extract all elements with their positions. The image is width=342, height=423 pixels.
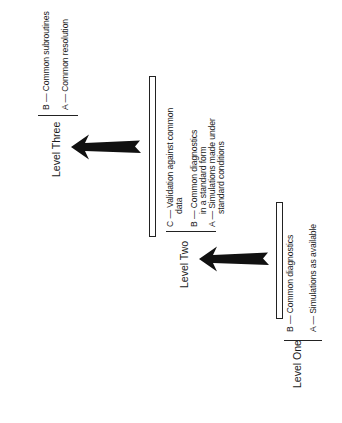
level-three-item-a: A — Common resolution	[61, 19, 70, 110]
level-two-item-c-cont: data	[175, 198, 184, 214]
level-one-label: Level One	[292, 340, 303, 388]
level-two-label: Level Two	[179, 241, 190, 288]
arrow-left-icon	[198, 245, 270, 273]
level-two-divider	[166, 231, 216, 232]
level-one-bar	[276, 202, 283, 319]
level-one-item-a: A — Simulations as available	[309, 224, 318, 332]
arrow-left-icon	[70, 133, 142, 161]
level-one-divider	[284, 340, 322, 341]
level-two-bar	[149, 76, 156, 237]
level-one-item-b: B — Common diagnostics	[286, 235, 295, 332]
level-three-item-b: B — Common subroutines	[42, 11, 51, 110]
level-three-label: Level Three	[51, 122, 62, 177]
level-three-divider	[38, 115, 78, 116]
level-two-item-a-cont: standard conditions	[217, 141, 226, 214]
